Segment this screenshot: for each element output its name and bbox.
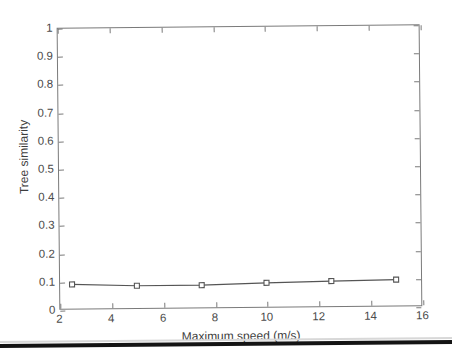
y-axis-tick (60, 311, 65, 312)
y-axis-tick-label: 1 (46, 22, 53, 34)
data-point-marker (329, 279, 334, 284)
y-axis-tick-label: 0.1 (39, 275, 55, 287)
series-markers (70, 277, 399, 289)
x-axis-tick-label: 16 (416, 309, 429, 321)
y-axis-tick-label: 0.8 (37, 78, 53, 90)
x-axis-tick-label: 6 (160, 312, 167, 324)
data-point-marker (70, 282, 75, 287)
plot-group: 00.10.20.30.40.50.60.70.80.91 2468101214… (0, 0, 446, 355)
x-axis-tick-label: 8 (212, 311, 219, 323)
data-point-marker (134, 283, 139, 288)
y-axis-tick-label: 0.4 (38, 191, 54, 203)
data-point-marker (264, 280, 269, 285)
y-axis-tick-label: 0.5 (38, 163, 54, 175)
x-axis-tick-label: 14 (364, 310, 377, 322)
series-line-tree-similarity (72, 280, 396, 287)
x-axis-tick-label: 10 (260, 311, 273, 323)
x-axis-tick (421, 25, 422, 30)
x-axis-tick-label: 2 (56, 313, 63, 325)
x-axis-tick (423, 300, 424, 305)
x-axis-tick-label: 12 (312, 310, 325, 322)
y-axis-tick-labels: 00.10.20.30.40.50.60.70.80.91 (9, 28, 56, 310)
y-axis-tick-label: 0.9 (37, 50, 53, 62)
x-axis-tick-label: 4 (108, 312, 115, 324)
data-point-marker (199, 283, 204, 288)
data-series-layer (57, 24, 423, 309)
y-axis-tick (416, 307, 421, 308)
y-axis-tick-label: 0.7 (37, 106, 53, 118)
y-axis-tick-label: 0.3 (38, 219, 54, 231)
data-point-marker (394, 277, 399, 282)
y-axis-label: Tree similarity (16, 87, 31, 227)
y-axis-tick-label: 0.2 (39, 247, 55, 259)
y-axis-tick-label: 0.6 (38, 134, 54, 146)
